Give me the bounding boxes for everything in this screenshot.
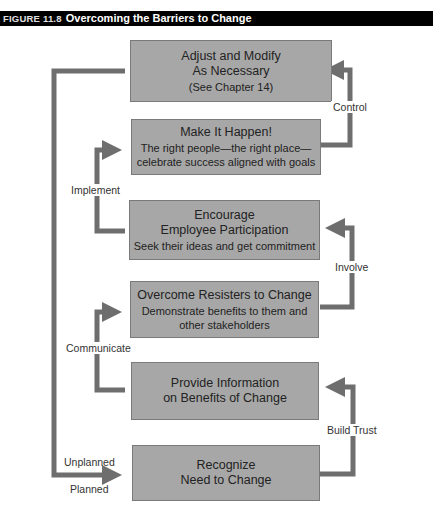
step-adjust-modify: Adjust and Modify As Necessary (See Chap… [130, 40, 332, 102]
label-implement: Implement [69, 184, 122, 196]
step-title-line2: As Necessary [192, 64, 269, 79]
label-communicate: Communicate [64, 342, 133, 354]
label-build-trust: Build Trust [325, 424, 379, 436]
step-detail-line2: other stakeholders [179, 318, 270, 332]
step-detail-line2: celebrate success aligned with goals [137, 155, 316, 169]
step-recognize-need: Recognize Need to Change [132, 445, 320, 501]
step-title-line2: on Benefits of Change [163, 391, 287, 406]
step-encourage-participation: Encourage Employee Participation Seek th… [129, 200, 320, 260]
step-detail: Demonstrate benefits to them and [142, 304, 308, 318]
label-control: Control [331, 101, 369, 113]
step-title: Adjust and Modify [181, 49, 280, 64]
step-title: Make It Happen! [180, 125, 272, 140]
step-title-line2: Need to Change [180, 473, 271, 488]
step-detail: The right people—the right place— [141, 141, 312, 155]
step-detail: (See Chapter 14) [189, 80, 273, 94]
label-involve: Involve [333, 261, 370, 273]
step-title: Encourage [194, 208, 254, 223]
step-title: Recognize [196, 458, 255, 473]
step-title: Provide Information [171, 376, 279, 391]
step-title-line2: Employee Participation [161, 223, 289, 238]
step-title: Overcome Resisters to Change [137, 288, 311, 303]
step-make-it-happen: Make It Happen! The right people—the rig… [131, 119, 321, 175]
unplanned-loop-line [54, 71, 125, 475]
label-planned: Planned [68, 483, 111, 495]
step-overcome-resisters: Overcome Resisters to Change Demonstrate… [130, 281, 319, 338]
step-detail: Seek their ideas and get commitment [134, 239, 316, 253]
label-unplanned: Unplanned [62, 456, 117, 468]
step-provide-information: Provide Information on Benefits of Chang… [131, 362, 319, 420]
